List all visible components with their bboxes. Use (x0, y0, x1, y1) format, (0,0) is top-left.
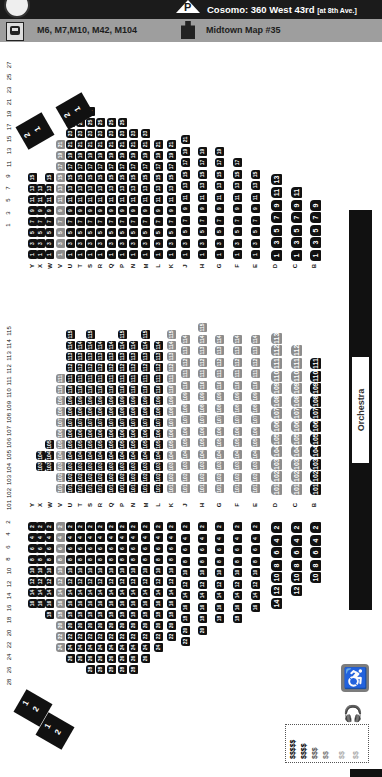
seat-D-10[interactable]: 10 (271, 572, 282, 583)
seat-L-7[interactable]: 7 (154, 217, 163, 226)
seat-F-113[interactable]: 113 (233, 346, 242, 355)
seat-D-13[interactable]: 13 (271, 174, 282, 185)
seat-G-18[interactable]: 18 (215, 614, 224, 623)
seat-S-107[interactable]: 107 (86, 418, 95, 427)
seat-W-16[interactable]: 16 (45, 599, 54, 608)
seat-L-19[interactable]: 19 (154, 151, 163, 160)
seat-N-22[interactable]: 22 (129, 632, 138, 641)
seat-J-111[interactable]: 111 (181, 369, 190, 378)
seat-V-15[interactable]: 15 (56, 173, 65, 182)
seat-P-5[interactable]: 5 (118, 228, 127, 237)
seat-S-12[interactable]: 12 (86, 577, 95, 586)
seat-T-6[interactable]: 6 (76, 544, 85, 553)
seat-K-107[interactable]: 107 (167, 418, 176, 427)
seat-V-105[interactable]: 105 (56, 440, 65, 449)
seat-L-12[interactable]: 12 (154, 577, 163, 586)
seat-G-114[interactable]: 114 (215, 335, 224, 344)
seat-J-15[interactable]: 15 (181, 170, 190, 179)
seat-Y-12[interactable]: 12 (28, 577, 37, 586)
seat-G-8[interactable]: 8 (215, 557, 224, 566)
seat-V-102[interactable]: 102 (56, 473, 65, 482)
seat-K-6[interactable]: 6 (167, 544, 176, 553)
seat-U-17[interactable]: 17 (66, 162, 75, 171)
seat-G-109[interactable]: 109 (215, 392, 224, 401)
seat-T-107[interactable]: 107 (76, 418, 85, 427)
seat-J-20[interactable]: 20 (181, 626, 190, 635)
seat-U-14[interactable]: 14 (66, 588, 75, 597)
seat-M-2[interactable]: 2 (141, 522, 150, 531)
seat-M-114[interactable]: 114 (141, 341, 150, 350)
seat-D-102[interactable]: 102 (271, 471, 282, 482)
seat-D-3[interactable]: 3 (271, 237, 282, 248)
seat-R-7[interactable]: 7 (96, 217, 105, 226)
seat-K-2[interactable]: 2 (167, 522, 176, 531)
seat-P-24[interactable]: 24 (118, 643, 127, 652)
seat-F-104[interactable]: 104 (233, 450, 242, 459)
seat-H-7[interactable]: 7 (198, 216, 207, 225)
seat-B-107[interactable]: 107 (310, 408, 321, 419)
seat-S-109[interactable]: 109 (86, 396, 95, 405)
seat-W-9[interactable]: 9 (45, 206, 54, 215)
seat-K-106[interactable]: 106 (167, 429, 176, 438)
seat-J-105[interactable]: 105 (181, 438, 190, 447)
seat-B-104[interactable]: 104 (310, 446, 321, 457)
seat-D-5[interactable]: 5 (271, 225, 282, 236)
seat-E-105[interactable]: 105 (251, 438, 260, 447)
seat-H-1[interactable]: 1 (198, 250, 207, 259)
seat-T-102[interactable]: 102 (76, 473, 85, 482)
seat-H-101[interactable]: 101 (198, 484, 207, 493)
seat-P-114[interactable]: 114 (118, 341, 127, 350)
seat-S-114[interactable]: 114 (86, 341, 95, 350)
seat-J-108[interactable]: 108 (181, 404, 190, 413)
seat-S-24[interactable]: 24 (86, 643, 95, 652)
seat-H-108[interactable]: 108 (198, 404, 207, 413)
seat-W-3[interactable]: 3 (45, 239, 54, 248)
seat-F-102[interactable]: 102 (233, 473, 242, 482)
seat-J-17[interactable]: 17 (181, 158, 190, 167)
seat-J-22[interactable]: 22 (181, 637, 190, 646)
seat-P-106[interactable]: 106 (118, 429, 127, 438)
seat-R-20[interactable]: 20 (96, 621, 105, 630)
seat-G-106[interactable]: 106 (215, 427, 224, 436)
seat-F-4[interactable]: 4 (233, 534, 242, 543)
seat-U-110[interactable]: 110 (66, 385, 75, 394)
seat-K-113[interactable]: 113 (167, 352, 176, 361)
seat-E-6[interactable]: 6 (251, 545, 260, 554)
seat-V-110[interactable]: 110 (56, 385, 65, 394)
seat-L-104[interactable]: 104 (154, 451, 163, 460)
seat-U-1[interactable]: 1 (66, 250, 75, 259)
seat-P-9[interactable]: 9 (118, 206, 127, 215)
seat-D-2[interactable]: 2 (271, 522, 282, 533)
seat-F-2[interactable]: 2 (233, 522, 242, 531)
seat-L-5[interactable]: 5 (154, 228, 163, 237)
seat-C-12[interactable]: 12 (291, 585, 302, 596)
seat-F-5[interactable]: 5 (233, 227, 242, 236)
seat-V-103[interactable]: 103 (56, 462, 65, 471)
seat-N-3[interactable]: 3 (129, 239, 138, 248)
seat-L-1[interactable]: 1 (154, 250, 163, 259)
seat-T-19[interactable]: 19 (76, 151, 85, 160)
seat-X-6[interactable]: 6 (36, 544, 45, 553)
seat-W-104[interactable]: 104 (45, 451, 54, 460)
seat-H-114[interactable]: 114 (198, 335, 207, 344)
seat-X-9[interactable]: 9 (36, 206, 45, 215)
seat-H-111[interactable]: 111 (198, 369, 207, 378)
seat-N-112[interactable]: 112 (129, 363, 138, 372)
seat-T-2[interactable]: 2 (76, 522, 85, 531)
seat-P-28[interactable]: 28 (118, 665, 127, 674)
seat-M-10[interactable]: 10 (141, 566, 150, 575)
seat-E-104[interactable]: 104 (251, 450, 260, 459)
seat-M-103[interactable]: 103 (141, 462, 150, 471)
seat-N-18[interactable]: 18 (129, 610, 138, 619)
seat-V-8[interactable]: 8 (56, 555, 65, 564)
seat-V-24[interactable]: 24 (56, 643, 65, 652)
seat-K-13[interactable]: 13 (167, 184, 176, 193)
seat-T-14[interactable]: 14 (76, 588, 85, 597)
seat-T-21[interactable]: 21 (76, 140, 85, 149)
seat-U-103[interactable]: 103 (66, 462, 75, 471)
seat-N-8[interactable]: 8 (129, 555, 138, 564)
seat-T-109[interactable]: 109 (76, 396, 85, 405)
seat-R-106[interactable]: 106 (96, 429, 105, 438)
seat-V-19[interactable]: 19 (56, 151, 65, 160)
seat-S-101[interactable]: 101 (86, 484, 95, 493)
